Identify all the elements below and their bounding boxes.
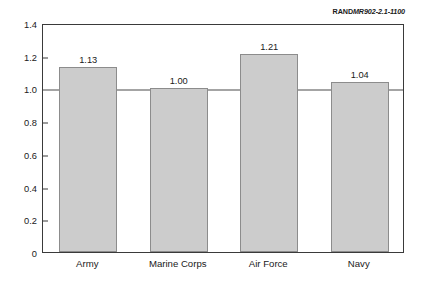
bar-value-label: 1.04 — [351, 70, 369, 80]
x-axis-category-label: Army — [76, 258, 98, 269]
y-axis-tick-mark — [43, 221, 48, 222]
bar-army: 1.13 — [59, 67, 117, 252]
rand-logo-text: RAND — [333, 7, 353, 16]
y-axis-tick-mark — [43, 155, 48, 156]
bar-value-label: 1.00 — [170, 76, 188, 86]
bar-marine-corps: 1.00 — [150, 88, 208, 252]
x-axis-category-label: Marine Corps — [149, 258, 207, 269]
y-axis-tick-mark — [43, 57, 48, 58]
y-axis-tick-label: 1.0 — [24, 85, 37, 95]
y-axis-tick-label: 1.4 — [24, 20, 37, 30]
bar-chart-figure: RANDMR902-2.1-1100 00.20.40.60.81.01.21.… — [0, 0, 424, 290]
bar-value-label: 1.13 — [79, 55, 97, 65]
y-axis-tick-mark — [43, 188, 48, 189]
y-axis-tick-label: 0.8 — [24, 118, 37, 128]
source-credit: RANDMR902-2.1-1100 — [333, 7, 405, 16]
bar-value-label: 1.21 — [260, 42, 278, 52]
bar-navy: 1.04 — [331, 82, 389, 252]
document-id-text: MR902-2.1-1100 — [353, 7, 405, 16]
y-axis-tick-mark — [43, 123, 48, 124]
y-axis-tick-label: 0.4 — [24, 184, 37, 194]
x-axis-category-label: Navy — [348, 258, 370, 269]
x-axis-category-label: Air Force — [249, 258, 288, 269]
y-axis-tick-label: 0.2 — [24, 216, 37, 226]
plot-inner: 00.20.40.60.81.01.21.41.131.001.211.04 — [43, 25, 403, 252]
plot-area: 00.20.40.60.81.01.21.41.131.001.211.04 — [42, 24, 404, 253]
y-axis-tick-label: 0 — [32, 249, 37, 259]
bar-air-force: 1.21 — [240, 54, 298, 252]
y-axis-tick-label: 0.6 — [24, 151, 37, 161]
y-axis-tick-label: 1.2 — [24, 53, 37, 63]
